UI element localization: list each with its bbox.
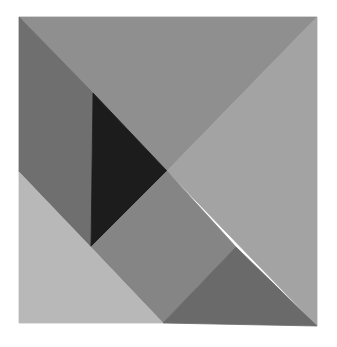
tangram-image: Tangram square assembled from seven pape… — [0, 0, 337, 347]
tangram-square — [0, 0, 337, 347]
